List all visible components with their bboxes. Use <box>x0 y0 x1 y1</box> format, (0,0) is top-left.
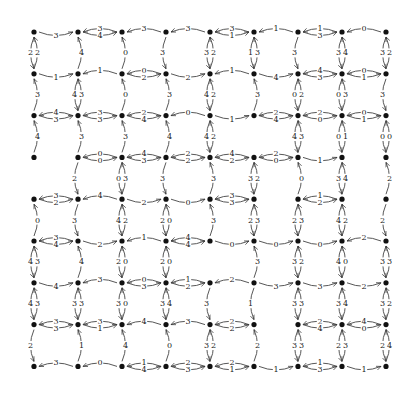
edge-label: 3 <box>336 299 341 308</box>
edge-label: 0 <box>317 240 322 249</box>
graph-node <box>339 364 344 369</box>
edge-label: 3 <box>123 174 128 183</box>
edge-label: 0 <box>273 156 278 165</box>
graph-node <box>251 238 256 243</box>
edge-label: 4 <box>167 132 172 141</box>
graph-node <box>75 29 80 34</box>
edge-label: 3 <box>204 48 209 57</box>
edge-label: 3 <box>317 282 322 291</box>
edge-label: 3 <box>167 90 172 99</box>
graph-node <box>251 71 256 76</box>
edge-label: 0 <box>167 257 172 266</box>
graph-node <box>31 280 36 285</box>
edge-label: 3 <box>255 90 260 99</box>
graph-node <box>119 322 124 327</box>
edge-label: 1 <box>53 73 58 82</box>
edge-label: 0 <box>229 240 234 249</box>
edge-label: 3 <box>97 115 102 124</box>
edge-label: 2 <box>160 257 165 266</box>
edge-label: 3 <box>317 31 322 40</box>
edge-label: 0 <box>361 24 366 33</box>
graph-node <box>31 71 36 76</box>
edge-label: 2 <box>211 132 216 141</box>
graph-node <box>163 71 168 76</box>
edge-label: 0 <box>361 324 366 333</box>
edge-label: 4 <box>141 115 146 124</box>
graph-node <box>251 113 256 118</box>
grid-graph-diagram: 3343331113011022144301433324012420010043… <box>0 0 417 398</box>
edge-label: 3 <box>292 341 297 350</box>
graph-node <box>163 238 168 243</box>
edge-label: 2 <box>141 198 146 207</box>
edge-label: 4 <box>167 299 172 308</box>
edge-label: 3 <box>204 341 209 350</box>
edge-label: 1 <box>97 66 102 75</box>
edge-label: 3 <box>141 282 146 291</box>
graph-node <box>207 280 212 285</box>
graph-node <box>295 280 300 285</box>
graph-node <box>251 364 256 369</box>
edge-label: 1 <box>317 156 322 165</box>
graph-node <box>295 238 300 243</box>
edge-label: 4 <box>97 31 102 40</box>
graph-node <box>75 322 80 327</box>
edge-label: 4 <box>79 257 84 266</box>
graph-node <box>339 322 344 327</box>
edge-label: 0 <box>273 240 278 249</box>
edge-label: 2 <box>380 341 385 350</box>
graph-node <box>75 364 80 369</box>
edge-label: 2 <box>299 257 304 266</box>
graph-node <box>295 155 300 160</box>
graph-node <box>163 364 168 369</box>
edge-label: 1 <box>361 73 366 82</box>
edge-label: 0 <box>185 198 190 207</box>
edge-label: 3 <box>123 132 128 141</box>
edge-label: 0 <box>123 90 128 99</box>
graph-node <box>383 280 388 285</box>
edge-label: 4 <box>72 90 77 99</box>
graph-node <box>207 71 212 76</box>
graph-node <box>383 238 388 243</box>
graph-node <box>207 197 212 202</box>
edge-label: 4 <box>79 48 84 57</box>
edge-label: 3 <box>343 341 348 350</box>
graph-node <box>339 113 344 118</box>
edge-label: 3 <box>79 299 84 308</box>
edge-label: 0 <box>299 174 304 183</box>
edge-label: 3 <box>248 174 253 183</box>
graph-node <box>31 197 36 202</box>
edge-label: 4 <box>53 240 58 249</box>
edge-label: 0 <box>116 174 121 183</box>
edge-label: 1 <box>273 365 278 374</box>
graph-node <box>163 197 168 202</box>
graph-node <box>339 238 344 243</box>
edge-label: 4 <box>141 365 146 374</box>
graph-node <box>207 322 212 327</box>
graph-node <box>251 29 256 34</box>
edge-label: 3 <box>211 174 216 183</box>
edge-label: 4 <box>123 341 128 350</box>
graph-node <box>119 280 124 285</box>
graph-node <box>75 155 80 160</box>
graph-node <box>163 155 168 160</box>
edge-label: 3 <box>380 48 385 57</box>
edge-label: 3 <box>255 257 260 266</box>
edge-label: 4 <box>336 216 341 225</box>
edge-label: 3 <box>317 73 322 82</box>
graph-node <box>31 155 36 160</box>
edge-label: 4 <box>273 115 278 124</box>
graph-node <box>119 29 124 34</box>
graph-node <box>119 155 124 160</box>
edge-label: 2 <box>185 73 190 82</box>
edge-label: 2 <box>72 174 77 183</box>
graph-node <box>207 29 212 34</box>
graph-node <box>295 29 300 34</box>
edge-label: 3 <box>35 90 40 99</box>
edge-label: 2 <box>116 257 121 266</box>
graph-node <box>75 71 80 76</box>
edge-label: 3 <box>211 216 216 225</box>
edge-label: 4 <box>35 132 40 141</box>
edge-label: 1 <box>248 48 253 57</box>
graph-node <box>295 113 300 118</box>
graph-node <box>251 197 256 202</box>
